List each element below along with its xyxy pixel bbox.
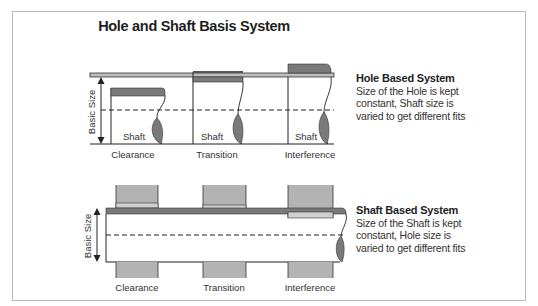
shaft-label-interference: Shaft [295,131,318,142]
hole-fit-clearance: Clearance [111,149,154,160]
hole-based-text-2: constant, Shaft size is [356,97,526,110]
shaft-based-text-3: varied to get different fits [356,242,526,255]
hole-basic-size-label: Basic Size [86,90,97,134]
hole-tolerance-bar [90,73,334,77]
shaft-based-text-2: constant, Hole size is [356,229,526,242]
hole-based-heading: Hole Based System [356,72,526,85]
shaft-basic-size-label: Basic Size [82,214,93,258]
hole-based-description: Hole Based System Size of the Hole is ke… [356,72,526,122]
shaft-based-heading: Shaft Based System [356,204,526,217]
shaft-basic-size-arrow [94,208,101,262]
shaft-label-clearance: Shaft [123,131,146,142]
fit-diagram: Basic Size Shaft Shaft Shaft Clearance T… [0,0,538,306]
shaft-label-transition: Shaft [201,131,224,142]
hole-fit-transition: Transition [196,149,237,160]
shaft-break-mark [336,236,344,262]
hole-fit-interference: Interference [285,149,336,160]
hole-based-text-3: varied to get different fits [356,110,526,123]
shaft-based-diagram [94,185,347,278]
shaft-based-description: Shaft Based System Size of the Shaft is … [356,204,526,254]
hole-based-text-1: Size of the Hole is kept [356,85,526,98]
lower-hole-blocks [116,262,333,278]
shaft-based-text-1: Size of the Shaft is kept [356,217,526,230]
shaft-fit-clearance: Clearance [115,282,158,293]
shaft-fit-interference: Interference [285,282,336,293]
shaft-fit-transition: Transition [203,282,244,293]
